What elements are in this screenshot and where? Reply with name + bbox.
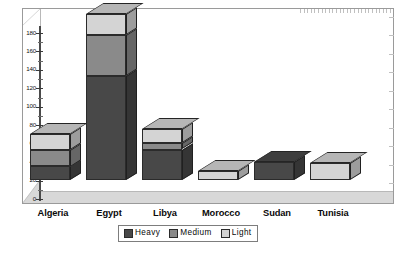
bar-segment-medium[interactable] <box>86 35 126 76</box>
chart-legend: HeavyMediumLight <box>118 225 258 242</box>
bar-column[interactable] <box>198 171 238 180</box>
bar-segment-heavy[interactable] <box>254 162 294 180</box>
legend-label: Medium <box>180 229 212 237</box>
bar-column[interactable] <box>30 134 70 180</box>
bar-side-face <box>126 28 137 75</box>
legend-label: Light <box>232 229 252 237</box>
legend-swatch-medium <box>169 229 178 238</box>
bar-segment-light[interactable] <box>310 163 350 180</box>
bar-segment-light[interactable] <box>30 134 70 150</box>
legend-label: Heavy <box>135 229 160 237</box>
bar-segment-light[interactable] <box>198 171 238 180</box>
bar-column[interactable] <box>142 129 182 180</box>
bar-segment-heavy[interactable] <box>142 150 182 180</box>
bar-side-face <box>126 69 137 180</box>
bar-segment-medium[interactable] <box>30 150 70 167</box>
x-category-label-libya: Libya <box>134 205 196 221</box>
bar-segment-heavy[interactable] <box>30 166 70 180</box>
bar-segment-light[interactable] <box>142 129 182 143</box>
x-category-label-sudan: Sudan <box>246 205 308 221</box>
bar-segment-medium[interactable] <box>142 143 182 149</box>
legend-item-heavy[interactable]: Heavy <box>124 229 160 238</box>
x-category-label-algeria: Algeria <box>22 205 84 221</box>
x-category-label-tunisia: Tunisia <box>302 205 364 221</box>
chart-canvas: 020406080100120140160180 AlgeriaEgyptLib… <box>0 0 402 253</box>
x-category-label-morocco: Morocco <box>190 205 252 221</box>
bar-segment-light[interactable] <box>86 14 126 35</box>
bar-column[interactable] <box>86 14 126 180</box>
bar-column[interactable] <box>310 163 350 180</box>
bar-column[interactable] <box>254 162 294 180</box>
bars-layer <box>22 8 394 204</box>
legend-swatch-light <box>221 229 230 238</box>
legend-swatch-heavy <box>124 229 133 238</box>
x-category-label-egypt: Egypt <box>78 205 140 221</box>
legend-item-light[interactable]: Light <box>221 229 252 238</box>
x-axis-category-labels: AlgeriaEgyptLibyaMoroccoSudanTunisia <box>22 205 394 221</box>
legend-item-medium[interactable]: Medium <box>169 229 212 238</box>
bar-segment-heavy[interactable] <box>86 76 126 180</box>
